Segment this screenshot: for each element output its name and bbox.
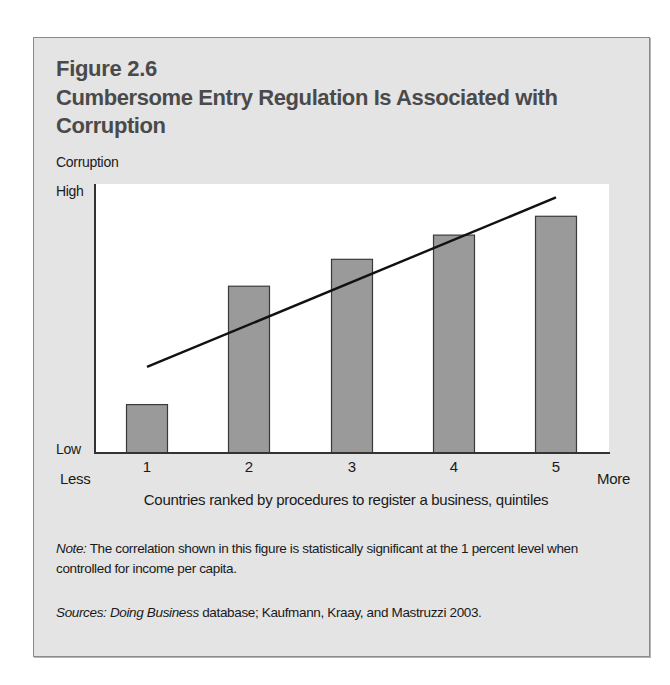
figure-sources: Sources: Doing Business database; Kaufma…: [56, 605, 646, 620]
bar-quintile-5: [536, 216, 577, 453]
figure-panel: Figure 2.6 Cumbersome Entry Regulation I…: [33, 37, 650, 657]
x-tick-label: 3: [342, 458, 362, 475]
y-axis-line: [94, 184, 96, 454]
x-axis-title: Countries ranked by procedures to regist…: [96, 491, 596, 508]
sources-text: database; Kaufmann, Kraay, and Mastruzzi…: [199, 605, 482, 620]
figure-note: Note: The correlation shown in this figu…: [56, 539, 636, 579]
x-tick-label: 1: [137, 458, 157, 475]
bar-quintile-2: [229, 286, 270, 453]
sources-italic: Doing Business: [110, 605, 199, 620]
bar-quintile-1: [127, 405, 168, 453]
x-axis-less-label: Less: [60, 470, 91, 487]
note-label: Note:: [56, 541, 87, 556]
x-tick-label: 5: [546, 458, 566, 475]
x-axis-line: [94, 452, 610, 454]
x-tick-label: 2: [239, 458, 259, 475]
x-tick-label: 4: [444, 458, 464, 475]
x-axis-more-label: More: [597, 470, 630, 487]
sources-label: Sources:: [56, 605, 110, 620]
bar-quintile-4: [434, 235, 475, 453]
note-text: The correlation shown in this figure is …: [56, 541, 578, 576]
